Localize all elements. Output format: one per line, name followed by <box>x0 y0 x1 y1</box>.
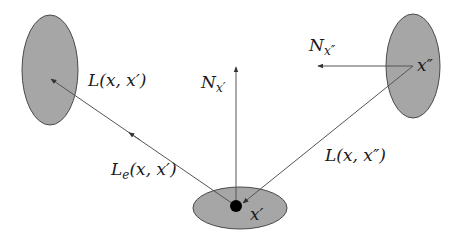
ray-xprime-to-x <box>51 79 236 206</box>
xprime-point <box>230 200 242 212</box>
left-surface <box>22 15 78 125</box>
label-le-x-xprime: Le(x, x′) <box>110 159 177 182</box>
rendering-equation-diagram: L(x, x′) Nx′ Nx″ x″ L(x, x″) Le(x, x′) x… <box>0 0 460 242</box>
ray-xdoubleprime-to-xprime <box>243 66 413 203</box>
label-n-xdoubleprime: Nx″ <box>308 35 336 58</box>
label-l-x-xprime: L(x, x′) <box>87 70 146 90</box>
label-n-xprime: Nx′ <box>200 72 226 95</box>
ray-midpoint-arrow <box>129 133 140 141</box>
label-l-x-xdoubleprime: L(x, x″) <box>324 145 386 165</box>
label-xprime: x′ <box>250 204 264 224</box>
label-xdoubleprime: x″ <box>417 55 434 75</box>
